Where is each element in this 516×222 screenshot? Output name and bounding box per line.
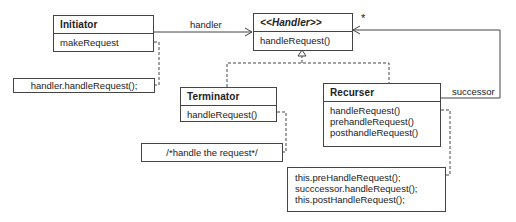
- method: handleRequest(): [181, 106, 276, 123]
- note-initiator: handler.handleRequest();: [13, 78, 155, 93]
- class-handler: <<Handler>> handleRequest(): [253, 13, 353, 51]
- method: posthandleRequest(): [330, 127, 434, 138]
- note-recurser: this.preHandleRequest(); succcessor.hand…: [287, 167, 446, 212]
- method: handleRequest(): [330, 105, 434, 116]
- association-label-handler: handler: [190, 19, 222, 30]
- class-name: <<Handler>>: [254, 14, 352, 32]
- class-terminator: Terminator handleRequest(): [180, 87, 277, 122]
- association-label-successor: successor: [452, 86, 495, 97]
- class-recurser: Recurser handleRequest() prehandleReques…: [323, 83, 441, 147]
- class-name: Terminator: [181, 88, 276, 106]
- multiplicity-label: *: [361, 12, 365, 24]
- note-text: /*handle the request*/: [166, 147, 257, 158]
- class-name: Initiator: [54, 16, 153, 34]
- method-list: handleRequest() prehandleRequest() posth…: [324, 102, 440, 141]
- note-terminator: /*handle the request*/: [141, 143, 283, 162]
- note-line: this.preHandleRequest();: [295, 172, 438, 183]
- note-line: this.postHandleRequest();: [295, 194, 438, 205]
- class-name: Recurser: [324, 84, 440, 102]
- method: handleRequest(): [254, 32, 352, 49]
- class-initiator: Initiator makeRequest: [53, 15, 154, 52]
- note-line: succcessor.handleRequest();: [295, 183, 438, 194]
- method: prehandleRequest(): [330, 116, 434, 127]
- method: makeRequest: [54, 34, 153, 51]
- note-text: handler.handleRequest();: [31, 80, 138, 91]
